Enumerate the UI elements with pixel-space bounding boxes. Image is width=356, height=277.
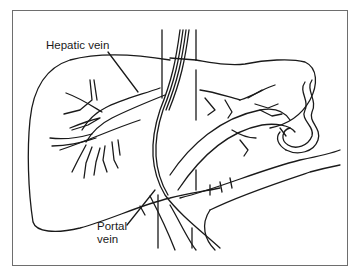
portal-vein-label: Portal vein <box>97 220 127 246</box>
hepatic-vein-branches <box>50 80 165 178</box>
hepatic-vein-label: Hepatic vein <box>46 39 109 52</box>
liver-outline <box>28 55 315 231</box>
portal-vein <box>140 109 340 250</box>
portal-vein-label-line1: Portal <box>97 220 127 233</box>
leader-lines <box>108 52 155 225</box>
portal-vein-label-line2: vein <box>97 233 127 246</box>
intestine-loops <box>278 80 319 153</box>
right-lobe-vessels <box>200 85 286 156</box>
